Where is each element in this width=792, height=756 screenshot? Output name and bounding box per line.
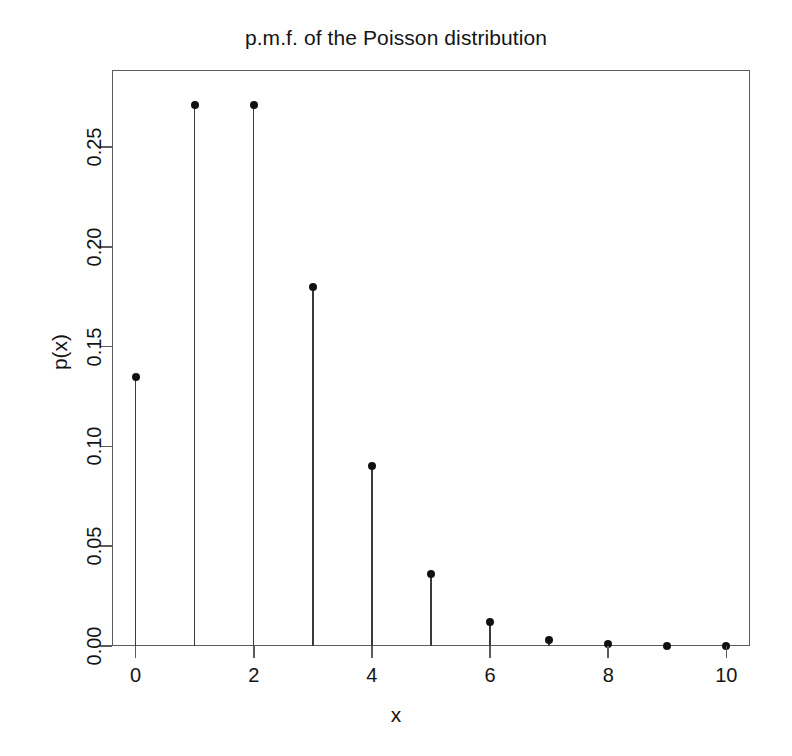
y-tick-label: 0.00 bbox=[83, 627, 106, 666]
x-tick-mark bbox=[489, 646, 491, 658]
x-tick-mark bbox=[607, 646, 609, 658]
stem-line bbox=[430, 574, 431, 646]
y-axis-label: p(x) bbox=[48, 292, 72, 412]
x-tick-label: 2 bbox=[248, 664, 259, 687]
y-tick-label: 0.15 bbox=[83, 327, 106, 366]
stem-line bbox=[312, 287, 313, 646]
chart-title: p.m.f. of the Poisson distribution bbox=[0, 26, 792, 50]
x-tick-mark bbox=[726, 646, 728, 658]
stem-line bbox=[253, 105, 254, 646]
y-tick-label: 0.05 bbox=[83, 527, 106, 566]
y-tick-label: 0.20 bbox=[83, 228, 106, 267]
x-tick-mark bbox=[371, 646, 373, 658]
data-point bbox=[191, 101, 199, 109]
x-tick-label: 8 bbox=[603, 664, 614, 687]
plot-area: 0.000.050.100.150.200.25 0246810 bbox=[112, 70, 750, 646]
data-point bbox=[663, 642, 671, 650]
y-tick-label: 0.25 bbox=[83, 128, 106, 167]
x-tick-label: 4 bbox=[366, 664, 377, 687]
poisson-pmf-figure: p.m.f. of the Poisson distribution p(x) … bbox=[0, 0, 792, 756]
x-tick-mark bbox=[253, 646, 255, 658]
x-tick-mark bbox=[135, 646, 137, 658]
plot-frame bbox=[112, 70, 750, 646]
y-tick-label: 0.10 bbox=[83, 427, 106, 466]
stem-line bbox=[135, 377, 136, 646]
x-axis-label: x bbox=[0, 703, 792, 727]
x-tick-label: 0 bbox=[130, 664, 141, 687]
x-tick-label: 6 bbox=[485, 664, 496, 687]
stem-line bbox=[371, 466, 372, 646]
stem-line bbox=[194, 105, 195, 646]
data-point bbox=[309, 283, 317, 291]
x-tick-label: 10 bbox=[715, 664, 737, 687]
data-point bbox=[132, 373, 140, 381]
